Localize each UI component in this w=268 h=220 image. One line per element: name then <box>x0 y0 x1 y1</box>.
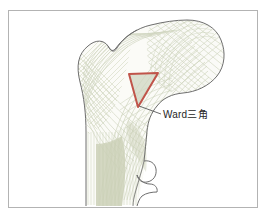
figure-root: Ward三角 <box>0 0 268 220</box>
ward-triangle-label: Ward三角 <box>163 109 208 121</box>
medullary-cavity <box>96 136 125 206</box>
femur-illustration <box>0 0 268 220</box>
